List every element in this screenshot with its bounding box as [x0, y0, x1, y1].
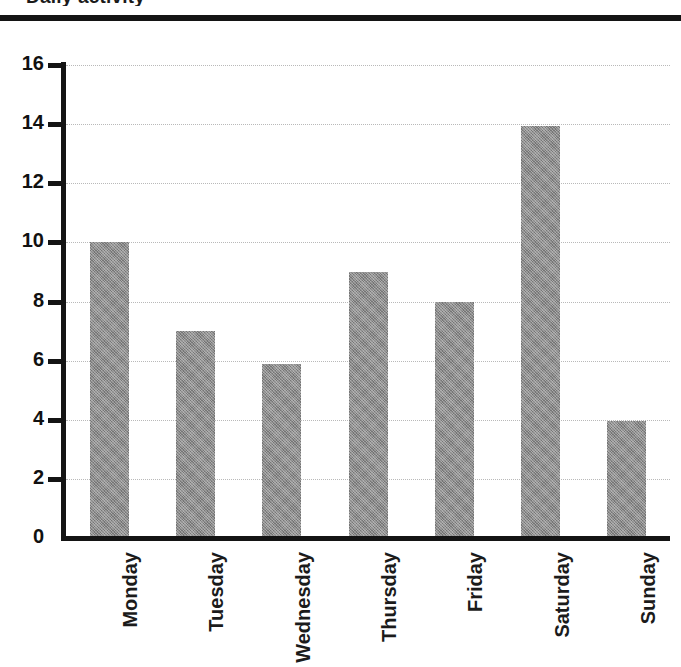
y-axis-tick-label: 8 [0, 289, 44, 312]
y-axis-tick-label: 10 [0, 229, 44, 252]
bar [349, 272, 388, 538]
x-axis-label-text: Saturday [551, 552, 574, 638]
y-axis-tick [48, 181, 62, 186]
y-axis-tick-label: 12 [0, 170, 44, 193]
x-axis-label-text: Tuesday [205, 552, 228, 632]
bar [435, 302, 474, 539]
gridline [66, 124, 670, 126]
x-axis-label-wednesday: Wednesday [292, 552, 315, 663]
gridline [66, 242, 670, 244]
x-axis-label-text: Monday [119, 552, 142, 628]
y-axis-tick [48, 240, 62, 245]
x-axis-label-text: Wednesday [292, 552, 315, 663]
x-axis-label-thursday: Thursday [378, 552, 401, 642]
y-axis-tick-label: 4 [0, 407, 44, 430]
x-axis-line [61, 536, 670, 541]
y-axis-tick [48, 122, 62, 127]
y-axis-tick [48, 418, 62, 423]
y-axis-tick-label: 14 [0, 111, 44, 134]
bar-chart: 0246810121416 MondayTuesdayWednesdayThur… [0, 0, 681, 667]
y-axis-tick [48, 359, 62, 364]
bar [262, 364, 301, 538]
y-axis-tick [48, 63, 62, 68]
y-axis-tick [48, 477, 62, 482]
y-axis-tick [48, 300, 62, 305]
plot-area [66, 65, 670, 538]
bar [176, 331, 215, 538]
x-axis-label-text: Friday [464, 552, 487, 612]
y-axis-tick-label: 0 [0, 525, 44, 548]
x-axis-label-sunday: Sunday [637, 552, 660, 624]
chart-page: Daily activity 0246810121416 MondayTuesd… [0, 0, 681, 667]
x-axis-label-tuesday: Tuesday [205, 552, 228, 632]
y-axis-tick-label: 16 [0, 52, 44, 75]
gridline [66, 183, 670, 185]
y-axis-tick-label: 6 [0, 348, 44, 371]
gridline [66, 65, 670, 67]
x-axis-label-text: Thursday [378, 552, 401, 642]
x-axis-label-text: Sunday [637, 552, 660, 624]
x-axis-label-friday: Friday [464, 552, 487, 612]
y-axis-tick-label: 2 [0, 466, 44, 489]
bar [521, 126, 560, 538]
x-axis-label-saturday: Saturday [551, 552, 574, 638]
bar [90, 242, 129, 538]
x-axis-label-monday: Monday [119, 552, 142, 628]
bar [607, 421, 646, 538]
